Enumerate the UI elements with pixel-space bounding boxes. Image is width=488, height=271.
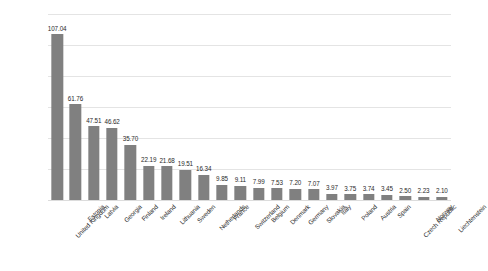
bar-value-label: 2.50: [399, 187, 411, 195]
x-axis-label: Georgia: [123, 203, 144, 224]
bar[interactable]: [326, 194, 337, 200]
bar[interactable]: [363, 194, 374, 200]
bar-slot[interactable]: 3.75: [341, 14, 359, 200]
x-axis-label: Austria: [378, 203, 397, 222]
bar-value-label: 7.99: [253, 178, 265, 186]
bar-slot[interactable]: 61.76: [66, 14, 84, 200]
bar-slot[interactable]: 22.19: [140, 14, 158, 200]
bar-slot[interactable]: 21.68: [158, 14, 176, 200]
bar-slot[interactable]: 2.23: [414, 14, 432, 200]
plot-area: 107.0461.7647.5146.6235.7022.1921.6819.5…: [48, 14, 451, 200]
bar-value-label: 7.53: [271, 179, 283, 187]
x-axis-label: Ireland: [158, 203, 177, 222]
bar[interactable]: [106, 128, 117, 200]
bar-value-label: 9.85: [216, 175, 228, 183]
bar-value-label: 61.76: [68, 95, 83, 103]
bar-value-label: 7.20: [289, 179, 301, 187]
bar-value-label: 16.34: [196, 165, 211, 173]
bar-value-label: 19.51: [178, 160, 193, 168]
bar-slot[interactable]: 9.85: [213, 14, 231, 200]
bar[interactable]: [253, 188, 264, 200]
x-axis-label: France: [232, 203, 251, 222]
bar[interactable]: [235, 186, 246, 200]
bar-slot[interactable]: 7.07: [304, 14, 322, 200]
bar[interactable]: [88, 126, 99, 200]
bar[interactable]: [70, 104, 81, 200]
bar-slot[interactable]: 3.74: [359, 14, 377, 200]
bar-slot[interactable]: 3.97: [323, 14, 341, 200]
bar-slot[interactable]: 2.50: [396, 14, 414, 200]
bar-slot[interactable]: 9.11: [231, 14, 249, 200]
bar[interactable]: [290, 189, 301, 200]
bar-value-label: 107.04: [48, 25, 67, 33]
x-axis-label: Finland: [140, 203, 160, 223]
bar-slot[interactable]: 7.53: [268, 14, 286, 200]
bar-value-label: 35.70: [123, 135, 138, 143]
bars-layer: 107.0461.7647.5146.6235.7022.1921.6819.5…: [48, 14, 451, 200]
bar-value-label: 7.07: [308, 180, 320, 188]
bar[interactable]: [161, 166, 172, 200]
bar-value-label: 2.10: [436, 187, 448, 195]
bar-value-label: 3.75: [344, 185, 356, 193]
bar[interactable]: [345, 194, 356, 200]
bar[interactable]: [271, 188, 282, 200]
bar[interactable]: [125, 145, 136, 200]
bar-value-label: 21.68: [159, 157, 174, 165]
bar-slot[interactable]: 3.45: [378, 14, 396, 200]
bar-value-label: 3.74: [363, 185, 375, 193]
bar[interactable]: [418, 197, 429, 200]
bar-value-label: 3.45: [381, 185, 393, 193]
bar-value-label: 3.97: [326, 184, 338, 192]
bar-slot[interactable]: 7.20: [286, 14, 304, 200]
bar-value-label: 46.62: [104, 118, 119, 126]
bar[interactable]: [51, 34, 62, 200]
bar-slot[interactable]: 107.04: [48, 14, 66, 200]
bar-slot[interactable]: 2.10: [433, 14, 451, 200]
x-axis-label: Lithuania: [178, 203, 201, 226]
bar-value-label: 47.51: [86, 117, 101, 125]
x-axis-label: Poland: [360, 203, 379, 222]
bar-value-label: 9.11: [235, 176, 246, 184]
x-axis-label: Spain: [396, 203, 413, 220]
bar[interactable]: [308, 189, 319, 200]
bar-slot[interactable]: 19.51: [176, 14, 194, 200]
bar-slot[interactable]: 47.51: [85, 14, 103, 200]
bar[interactable]: [400, 196, 411, 200]
bar[interactable]: [216, 185, 227, 200]
bar-value-label: 2.23: [418, 187, 430, 195]
bar-value-label: 22.19: [141, 156, 156, 164]
bar[interactable]: [180, 170, 191, 200]
bar-slot[interactable]: 46.62: [103, 14, 121, 200]
x-axis-label: Liechtenstein: [457, 203, 488, 234]
bar[interactable]: [198, 175, 209, 200]
bar[interactable]: [381, 195, 392, 200]
x-axis-category-labels: United KingdomEstoniaLatviaGeorgiaFinlan…: [48, 201, 451, 271]
bar-slot[interactable]: 35.70: [121, 14, 139, 200]
bar-slot[interactable]: 16.34: [195, 14, 213, 200]
bar[interactable]: [143, 166, 154, 200]
bar[interactable]: [436, 197, 447, 200]
bar-slot[interactable]: 7.99: [250, 14, 268, 200]
